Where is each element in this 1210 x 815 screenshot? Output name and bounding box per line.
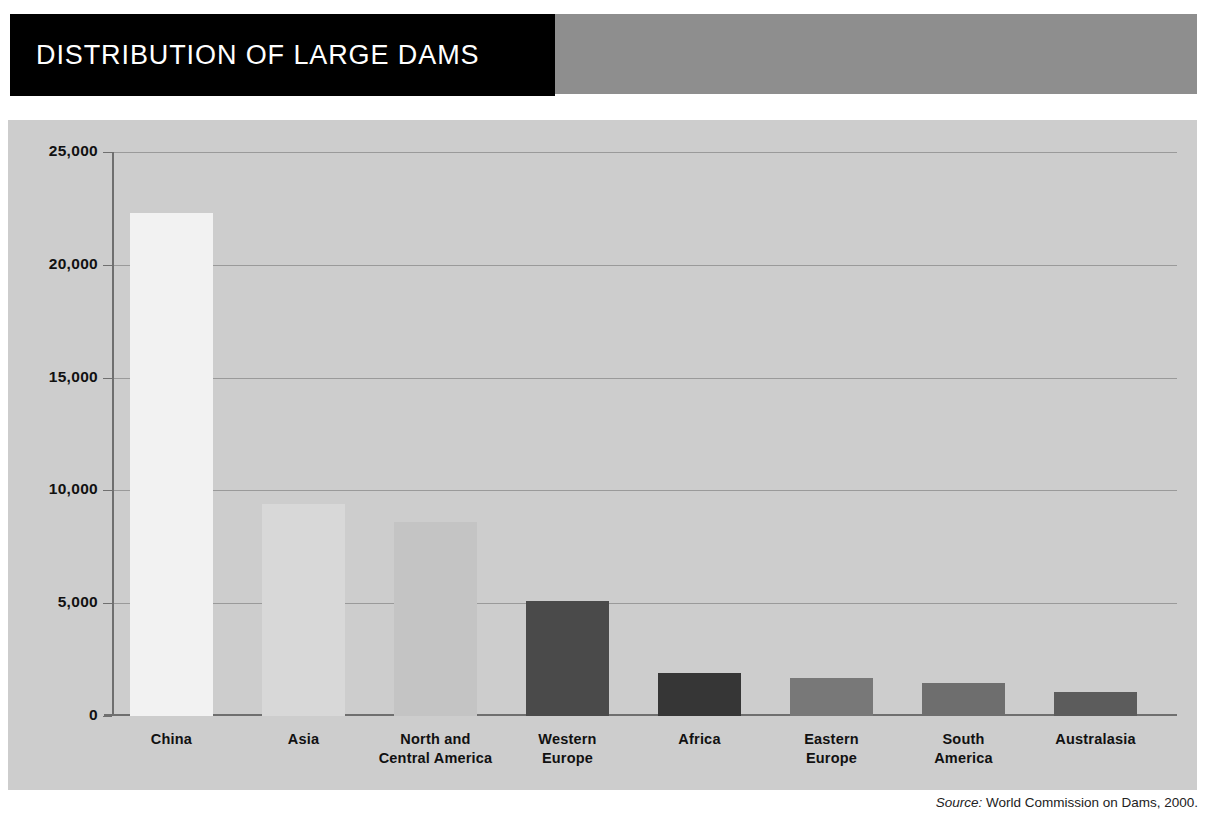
x-axis-label-line: Europe [493,749,643,768]
y-axis-tick-label: 20,000 [49,255,98,273]
x-axis-label-line: Australasia [1021,730,1171,749]
gridline [112,378,1177,379]
y-axis-line [112,152,114,716]
x-axis-label-line: South [889,730,1039,749]
y-axis-tick-label: 5,000 [58,593,98,611]
y-axis-tick [103,378,112,379]
x-axis-label-line: China [97,730,247,749]
bar [658,673,741,716]
source-text: World Commission on Dams, 2000. [986,795,1198,810]
x-axis-label-line: America [889,749,1039,768]
y-axis-tick-label: 10,000 [49,480,98,498]
y-axis-tick-label: 15,000 [49,368,98,386]
plot-area [112,144,1177,716]
bar [790,678,873,716]
header-gray-band [538,14,1197,94]
bar [922,683,1005,716]
y-axis-tick [103,265,112,266]
x-axis-label-line: Central America [361,749,511,768]
y-axis-tick [103,716,112,717]
gridline [112,152,1177,153]
x-axis-label-line: North and [361,730,511,749]
y-axis-tick [103,152,112,153]
x-axis-category-label: China [97,730,247,749]
bar [262,504,345,716]
x-axis-label-line: Asia [229,730,379,749]
bar [394,522,477,716]
y-axis-tick-label: 25,000 [49,142,98,160]
y-axis-tick-label: 0 [89,706,98,724]
y-axis-tick [103,603,112,604]
x-axis-category-label: WesternEurope [493,730,643,768]
x-axis-category-labels: ChinaAsiaNorth andCentral AmericaWestern… [112,724,1177,784]
bar [130,213,213,716]
x-axis-category-label: North andCentral America [361,730,511,768]
y-axis-tick-labels: 05,00010,00015,00020,00025,000 [8,144,98,716]
gridline [112,265,1177,266]
bar [526,601,609,716]
y-axis-tick [103,490,112,491]
title-block: DISTRIBUTION OF LARGE DAMS [10,14,555,96]
source-label: Source: [936,795,983,810]
x-axis-label-line: Europe [757,749,907,768]
bar [1054,692,1137,716]
x-axis-label-line: Africa [625,730,775,749]
x-axis-label-line: Western [493,730,643,749]
x-axis-category-label: Africa [625,730,775,749]
x-axis-category-label: SouthAmerica [889,730,1039,768]
page-title: DISTRIBUTION OF LARGE DAMS [10,40,479,71]
gridline [112,490,1177,491]
source-note: Source: World Commission on Dams, 2000. [936,795,1198,810]
x-axis-label-line: Eastern [757,730,907,749]
x-axis-category-label: Asia [229,730,379,749]
x-axis-category-label: Australasia [1021,730,1171,749]
chart-panel: 05,00010,00015,00020,00025,000 ChinaAsia… [8,120,1197,790]
x-axis-category-label: EasternEurope [757,730,907,768]
